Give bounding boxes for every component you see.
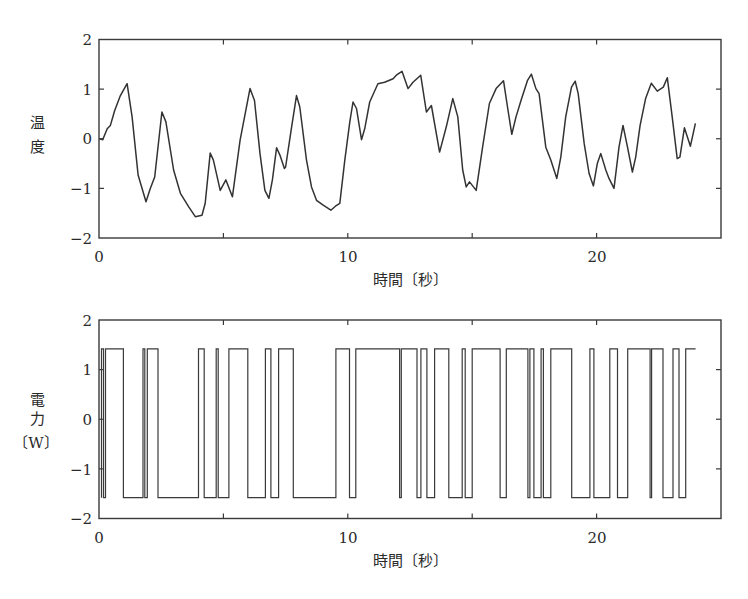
- y-tick-labels: 2 1 0 −1 −2: [70, 31, 92, 248]
- x-tick-labels: 0 10 20: [94, 529, 606, 547]
- power-step-line: [101, 349, 695, 498]
- x-tick-label: 20: [587, 529, 606, 547]
- figure: 温 度 2 1 0 −1 −2 0 10 20 時間〔秒〕 電 力 〔W〕 2: [0, 0, 748, 599]
- y-tick-label: 1: [82, 361, 92, 379]
- y-tick-labels: 2 1 0 −1 −2: [70, 312, 92, 528]
- x-tick-label: 0: [94, 248, 104, 266]
- y-tick-label: −2: [70, 510, 92, 528]
- y-axis-label-power: 電 力 〔W〕: [13, 391, 58, 452]
- y-tick-label: 2: [82, 31, 92, 49]
- x-axis-label-time: 時間〔秒〕: [373, 271, 448, 289]
- x-tick-label: 10: [338, 248, 357, 266]
- ylabel-char-2: 度: [30, 138, 45, 156]
- y-tick-label: 0: [82, 411, 92, 429]
- power-chart: 電 力 〔W〕 2 1 0 −1 −2 0 10 20 時間〔秒〕: [13, 312, 721, 570]
- y-tick-label: 1: [82, 81, 92, 99]
- temperature-chart: 温 度 2 1 0 −1 −2 0 10 20 時間〔秒〕: [30, 31, 722, 289]
- y-tick-label: 0: [82, 130, 92, 148]
- y-tick-label: −1: [70, 461, 92, 479]
- plot-frame: [99, 40, 721, 239]
- y-tick-label: −2: [70, 230, 92, 248]
- ylabel-unit: 〔W〕: [13, 434, 58, 452]
- y-axis-label-temperature: 温 度: [30, 114, 45, 156]
- ticks: [99, 40, 721, 239]
- y-tick-label: 2: [82, 312, 92, 330]
- x-tick-label: 10: [338, 529, 357, 547]
- ylabel-char-2: 力: [30, 410, 45, 428]
- ylabel-char-1: 温: [30, 114, 45, 132]
- x-tick-label: 0: [94, 529, 104, 547]
- ylabel-char-1: 電: [30, 391, 45, 409]
- y-tick-label: −1: [70, 180, 92, 198]
- temperature-line: [100, 71, 696, 216]
- x-tick-labels: 0 10 20: [94, 248, 606, 266]
- x-tick-label: 20: [587, 248, 606, 266]
- x-axis-label-time: 時間〔秒〕: [373, 552, 448, 570]
